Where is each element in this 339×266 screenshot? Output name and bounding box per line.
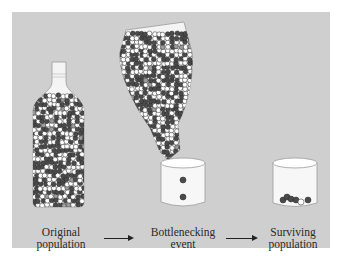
bead	[35, 199, 40, 204]
bead	[147, 70, 152, 75]
bead	[32, 128, 37, 133]
bead	[140, 132, 145, 137]
bead	[192, 40, 197, 45]
bead	[134, 124, 139, 129]
bead	[29, 93, 34, 98]
bead	[48, 194, 53, 199]
bead	[42, 98, 47, 103]
bead	[187, 52, 192, 57]
bead	[139, 65, 144, 70]
bead	[53, 165, 58, 170]
bead	[117, 120, 122, 125]
bead	[129, 116, 134, 121]
bead	[83, 136, 88, 141]
bead	[122, 94, 127, 99]
bead	[121, 99, 126, 104]
bead	[139, 124, 144, 129]
bead	[118, 136, 123, 141]
bead	[41, 169, 46, 174]
bead	[53, 203, 58, 208]
bead	[84, 194, 89, 199]
bead	[188, 119, 193, 124]
bead	[148, 145, 153, 150]
bead	[148, 120, 153, 125]
bead	[187, 145, 192, 150]
bead	[121, 49, 126, 54]
bead	[192, 137, 197, 142]
bead	[85, 152, 90, 157]
bead	[147, 35, 152, 40]
bead	[148, 136, 153, 141]
bead	[135, 145, 140, 150]
bead	[117, 86, 122, 91]
bead	[116, 90, 121, 95]
bead	[131, 144, 136, 149]
bead	[50, 119, 55, 124]
bead	[51, 94, 56, 99]
bead	[156, 65, 161, 70]
bead	[161, 70, 166, 75]
bead	[156, 145, 161, 150]
bead	[118, 35, 123, 40]
bead	[112, 115, 117, 120]
bead	[121, 111, 126, 116]
bead	[192, 32, 197, 37]
bead	[131, 133, 136, 138]
bead	[56, 93, 61, 98]
bead	[38, 97, 43, 102]
bead	[140, 146, 145, 151]
bead	[33, 97, 38, 102]
bead	[112, 107, 117, 112]
bead	[43, 144, 48, 149]
bead	[165, 74, 170, 79]
bead	[192, 140, 197, 145]
bead	[34, 102, 39, 107]
bead	[55, 140, 60, 145]
bead	[179, 132, 184, 137]
bead	[179, 137, 184, 142]
bead	[160, 32, 165, 37]
bead	[179, 91, 184, 96]
bead	[148, 78, 153, 83]
bead	[36, 111, 41, 116]
bead	[143, 44, 148, 49]
bead	[126, 119, 131, 124]
bead	[126, 141, 131, 146]
bead	[192, 103, 197, 108]
bead	[80, 169, 85, 174]
bead	[130, 119, 135, 124]
label-surviving-population: Surviving population	[260, 226, 326, 250]
bead	[121, 57, 126, 62]
bead	[84, 110, 89, 115]
bead	[192, 94, 197, 99]
bead	[57, 169, 62, 174]
bead	[85, 123, 90, 128]
bead	[84, 165, 89, 170]
bead	[140, 128, 145, 133]
bead	[83, 182, 88, 187]
bead	[118, 133, 123, 138]
bead	[147, 45, 152, 50]
bead	[183, 87, 188, 92]
bead	[83, 94, 88, 99]
bead	[134, 153, 139, 158]
bead	[187, 65, 192, 70]
bead	[67, 118, 72, 123]
bead	[130, 107, 135, 112]
bead	[113, 112, 118, 117]
bead	[118, 98, 123, 103]
bead	[182, 82, 187, 87]
bead	[152, 154, 157, 159]
bead	[62, 111, 67, 116]
bead	[169, 132, 174, 137]
bead	[126, 149, 131, 154]
bead	[187, 133, 192, 138]
bead	[143, 145, 148, 150]
bead	[113, 99, 118, 104]
bead	[143, 136, 148, 141]
bead	[182, 136, 187, 141]
bead	[126, 137, 131, 142]
bead	[143, 78, 148, 83]
bead	[64, 106, 69, 111]
bead	[126, 154, 131, 159]
